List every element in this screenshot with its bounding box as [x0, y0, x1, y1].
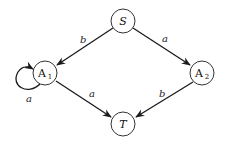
edge-label-s-a1: b — [80, 34, 86, 45]
node-s: S — [111, 9, 135, 33]
edge-label-a1-t: a — [89, 88, 95, 99]
node-a1-subscript: 1 — [48, 73, 52, 81]
node-t: T — [111, 112, 135, 136]
node-a2-subscript: 2 — [205, 73, 209, 81]
edge-label-a2-t: b — [159, 88, 165, 99]
edge-a1-to-t — [56, 81, 111, 117]
node-a1-label: A — [37, 67, 47, 80]
node-a1: A 1 — [33, 61, 57, 85]
edge-label-a1-loop: a — [26, 93, 32, 104]
node-a2-label: A — [194, 67, 204, 80]
node-a2: A 2 — [190, 61, 214, 85]
state-diagram: b a a a b S A 1 A 2 T — [0, 0, 237, 147]
node-s-label: S — [119, 15, 127, 28]
edge-label-s-a2: a — [162, 33, 168, 44]
